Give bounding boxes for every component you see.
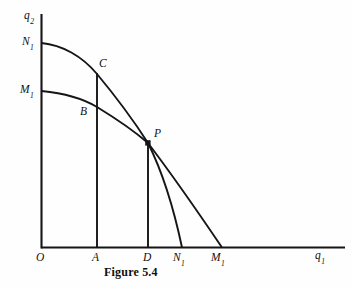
label-x-intercept-n1: N1 [173, 252, 185, 264]
figure-container: q2 q1 N1 M1 C B P O A D N1 M1 Figure 5.4 [0, 0, 351, 288]
curve-m1 [42, 91, 223, 248]
figure-caption: Figure 5.4 [104, 265, 158, 280]
label-point-p: P [154, 128, 161, 140]
x-axis-label: q1 [315, 250, 325, 262]
label-x-intercept-n1-sub: 1 [181, 259, 185, 268]
label-y-intercept-n1: N1 [22, 36, 34, 48]
label-x-tick-a-text: A [92, 251, 99, 263]
label-x-intercept-m1-sub: 1 [221, 259, 225, 268]
label-x-intercept-m1-text: M [211, 251, 221, 263]
point-p-marker [145, 140, 150, 145]
label-x-tick-d: D [143, 252, 151, 264]
label-x-intercept-n1-text: N [173, 251, 181, 263]
label-y-intercept-m1: M1 [20, 84, 34, 96]
transformation-curves-plot [0, 0, 351, 288]
y-axis-label-sub: 2 [30, 17, 34, 26]
label-point-b: B [80, 106, 87, 118]
label-y-intercept-m1-sub: 1 [30, 91, 34, 100]
y-axis-label: q2 [24, 10, 34, 22]
label-x-tick-a: A [92, 252, 99, 264]
label-x-tick-d-text: D [143, 251, 151, 263]
label-y-intercept-m1-text: M [20, 83, 30, 95]
label-origin-text: O [36, 251, 44, 263]
label-point-b-text: B [80, 105, 87, 117]
label-point-p-text: P [154, 127, 161, 139]
label-x-intercept-m1: M1 [211, 252, 225, 264]
x-axis-label-text: q [315, 249, 321, 261]
label-y-intercept-n1-sub: 1 [30, 43, 34, 52]
label-origin: O [36, 252, 44, 264]
x-axis-label-sub: 1 [321, 257, 325, 266]
label-point-c: C [99, 58, 107, 70]
label-point-c-text: C [99, 57, 107, 69]
y-axis-label-text: q [24, 9, 30, 21]
label-y-intercept-n1-text: N [22, 35, 30, 47]
curve-n1 [42, 43, 183, 248]
